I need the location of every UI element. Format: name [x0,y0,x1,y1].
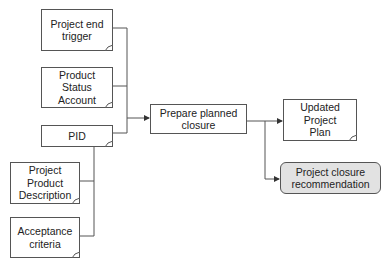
document-fold-icon [105,45,113,51]
project-closure-recommendation-box: Project closure recommendation [280,162,381,194]
document-fold-icon [72,198,80,204]
document-fold-icon [72,252,80,258]
document-fold-icon [105,141,113,147]
updated-project-plan-label: Updated Project Plan [300,101,340,139]
prepare-planned-closure-box: Prepare planned closure [150,104,247,134]
updated-project-plan-box: Updated Project Plan [283,99,357,141]
project-end-trigger-box: Project end trigger [41,9,113,51]
acceptance-criteria-box: Acceptance criteria [10,217,80,258]
document-fold-icon [105,102,113,108]
document-fold-icon [349,135,357,141]
project-product-description-box: Project Product Description [10,162,80,204]
product-status-account-label: Product Status Account [58,69,96,107]
product-status-account-box: Product Status Account [41,67,113,108]
acceptance-criteria-label: Acceptance criteria [18,225,73,250]
prepare-planned-closure-label: Prepare planned closure [160,107,238,132]
project-end-trigger-label: Project end trigger [50,18,103,43]
pid-label: PID [68,130,86,143]
project-product-description-label: Project Product Description [19,164,72,202]
pid-box: PID [41,125,113,147]
project-closure-recommendation-label: Project closure recommendation [291,166,369,191]
